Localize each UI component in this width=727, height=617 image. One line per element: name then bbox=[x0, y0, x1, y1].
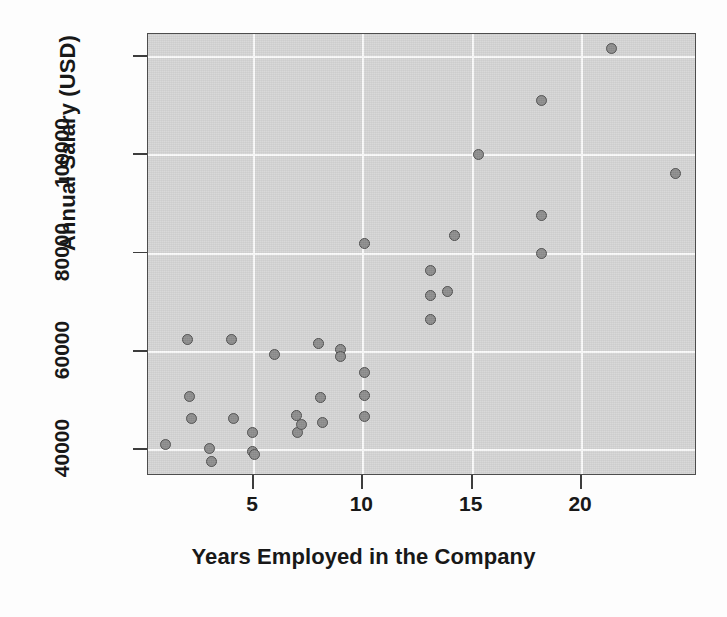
gridline-horizontal bbox=[148, 154, 695, 156]
data-point bbox=[425, 314, 436, 325]
data-point bbox=[182, 334, 193, 345]
data-point bbox=[359, 367, 370, 378]
y-axis-tick-label: 80000 bbox=[50, 197, 74, 307]
data-point bbox=[425, 265, 436, 276]
data-point bbox=[228, 413, 239, 424]
data-point bbox=[317, 417, 328, 428]
x-axis-tick bbox=[252, 475, 254, 489]
data-point bbox=[359, 238, 370, 249]
y-axis-tick-label: 40000 bbox=[50, 393, 74, 503]
y-axis-tick bbox=[133, 153, 147, 155]
data-point bbox=[536, 248, 547, 259]
data-point bbox=[442, 286, 453, 297]
x-axis-tick bbox=[471, 475, 473, 489]
data-point bbox=[160, 439, 171, 450]
data-point bbox=[206, 456, 217, 467]
data-point bbox=[359, 390, 370, 401]
x-axis-tick-label: 10 bbox=[331, 492, 391, 516]
data-point bbox=[184, 391, 195, 402]
data-point bbox=[359, 411, 370, 422]
data-point bbox=[247, 427, 258, 438]
data-point bbox=[313, 338, 324, 349]
x-axis-tick-label: 5 bbox=[222, 492, 282, 516]
scatter-plot-figure: Annual Salary (USD) Years Employed in th… bbox=[0, 0, 727, 617]
data-point bbox=[670, 168, 681, 179]
y-axis-tick-label: 100000 bbox=[50, 98, 74, 208]
x-axis-title: Years Employed in the Company bbox=[0, 544, 727, 570]
data-point bbox=[269, 349, 280, 360]
data-point bbox=[186, 413, 197, 424]
gridline-horizontal bbox=[148, 56, 695, 58]
x-axis-tick bbox=[580, 475, 582, 489]
data-point bbox=[204, 443, 215, 454]
gridline-horizontal bbox=[148, 449, 695, 451]
y-axis-tick bbox=[133, 252, 147, 254]
x-axis-tick-label: 20 bbox=[550, 492, 610, 516]
gridline-horizontal bbox=[148, 351, 695, 353]
data-point bbox=[335, 351, 346, 362]
y-axis-tick bbox=[133, 448, 147, 450]
y-axis-tick bbox=[133, 55, 147, 57]
data-point bbox=[296, 419, 307, 430]
data-point bbox=[606, 43, 617, 54]
y-axis-tick bbox=[133, 350, 147, 352]
y-axis-tick-label: 60000 bbox=[50, 295, 74, 405]
x-axis-tick-label: 15 bbox=[441, 492, 501, 516]
data-point bbox=[536, 95, 547, 106]
data-point bbox=[473, 149, 484, 160]
data-point bbox=[536, 210, 547, 221]
data-point bbox=[249, 449, 260, 460]
plot-panel bbox=[147, 33, 696, 475]
data-point bbox=[425, 290, 436, 301]
x-axis-tick bbox=[361, 475, 363, 489]
data-point bbox=[449, 230, 460, 241]
data-point bbox=[226, 334, 237, 345]
data-point bbox=[315, 392, 326, 403]
gridline-horizontal bbox=[148, 253, 695, 255]
